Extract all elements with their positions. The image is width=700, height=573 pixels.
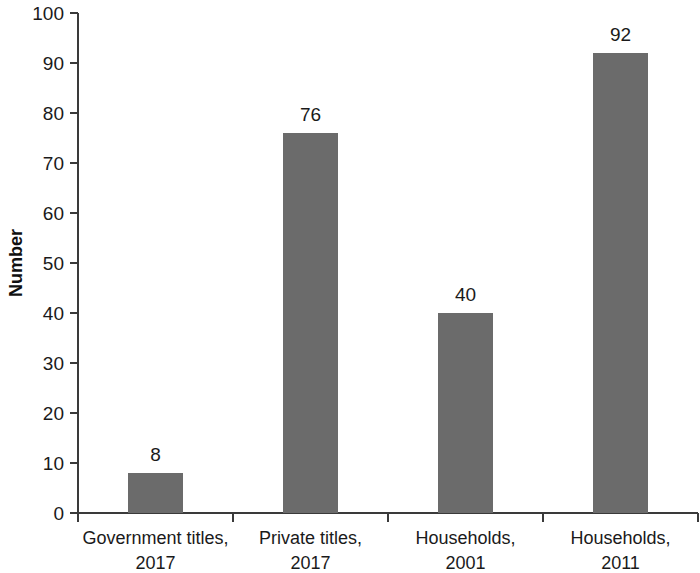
y-axis-tick-label: 100 [32,3,64,24]
y-axis: 0102030405060708090100 [32,3,78,524]
y-axis-tick-label: 90 [43,53,64,74]
y-axis-title: Number [6,229,26,297]
category-label-line: Households, [570,528,670,548]
category-label-line: 2017 [135,553,175,573]
category-label-line: 2001 [445,553,485,573]
bar-series [128,53,648,513]
y-axis-tick-label: 0 [53,503,64,524]
bar [438,313,493,513]
chart-canvas: 0102030405060708090100 8764092 Governmen… [0,0,700,573]
bar [128,473,183,513]
bar-chart: 0102030405060708090100 8764092 Governmen… [0,0,700,573]
x-axis [78,513,698,522]
bar [283,133,338,513]
bar-value-labels: 8764092 [150,24,631,465]
category-label-line: 2017 [290,553,330,573]
bar-value-label: 8 [150,444,161,465]
y-axis-tick-label: 20 [43,403,64,424]
category-label-line: Government titles, [82,528,228,548]
y-axis-tick-label: 30 [43,353,64,374]
bar-value-label: 76 [300,104,321,125]
bar [593,53,648,513]
y-axis-tick-label: 70 [43,153,64,174]
bar-value-label: 92 [610,24,631,45]
category-label-line: 2011 [601,553,640,573]
y-axis-tick-label: 80 [43,103,64,124]
y-axis-tick-label: 60 [43,203,64,224]
category-labels: Government titles,2017Private titles,201… [82,528,670,573]
y-axis-title-text: Number [6,229,26,297]
category-label-line: Households, [415,528,515,548]
y-axis-tick-label: 10 [43,453,64,474]
bar-value-label: 40 [455,284,476,305]
y-axis-tick-label: 50 [43,253,64,274]
y-axis-tick-label: 40 [43,303,64,324]
category-label-line: Private titles, [259,528,362,548]
